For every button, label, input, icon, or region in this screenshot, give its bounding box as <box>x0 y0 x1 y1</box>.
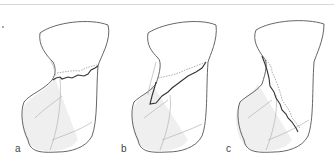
panel-b: b <box>110 0 222 167</box>
bone-illustration-c <box>214 0 334 167</box>
panel-a: a <box>0 0 112 167</box>
bone-illustration-b <box>110 0 222 167</box>
bone-illustration-a <box>0 0 112 167</box>
panel-c: c <box>214 0 326 167</box>
panel-label-c: c <box>226 144 231 154</box>
panel-label-b: b <box>121 144 127 154</box>
panel-label-a: a <box>15 144 21 154</box>
